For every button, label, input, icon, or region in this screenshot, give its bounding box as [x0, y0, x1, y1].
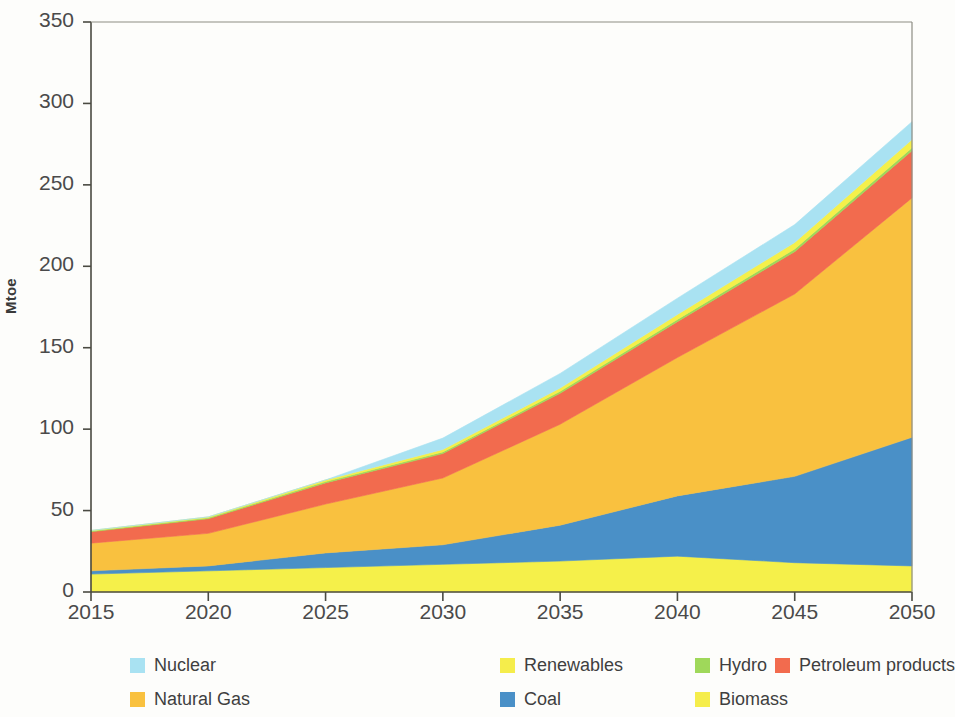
legend-swatch-icon [500, 658, 515, 673]
legend-item-natural-gas[interactable]: Natural Gas [130, 689, 250, 710]
x-axis-tick-label: 2020 [168, 600, 248, 624]
legend-item-coal[interactable]: Coal [500, 689, 561, 710]
legend-label: Petroleum products [799, 655, 955, 676]
y-axis-tick-label: 0 [28, 578, 74, 602]
legend-label: Coal [524, 689, 561, 710]
x-axis-tick-label: 2030 [403, 600, 483, 624]
y-axis-tick-label: 350 [28, 8, 74, 32]
chart-legend: NuclearRenewablesHydroPetroleum products… [130, 648, 930, 716]
x-axis-tick-label: 2025 [286, 600, 366, 624]
x-axis-tick-label: 2045 [755, 600, 835, 624]
legend-item-hydro[interactable]: Hydro [695, 655, 767, 676]
legend-label: Renewables [524, 655, 623, 676]
legend-label: Biomass [719, 689, 788, 710]
y-axis-tick-label: 50 [28, 497, 74, 521]
legend-label: Hydro [719, 655, 767, 676]
y-axis-tick-label: 150 [28, 334, 74, 358]
x-axis-tick-label: 2040 [637, 600, 717, 624]
legend-swatch-icon [500, 692, 515, 707]
legend-item-renewables[interactable]: Renewables [500, 655, 623, 676]
y-axis-tick-label: 300 [28, 89, 74, 113]
legend-label: Nuclear [154, 655, 216, 676]
y-axis-tick-label: 250 [28, 171, 74, 195]
y-axis-tick-label: 200 [28, 252, 74, 276]
x-axis-tick-label: 2050 [872, 600, 952, 624]
legend-swatch-icon [695, 658, 710, 673]
legend-row: Natural GasCoalBiomass [130, 682, 930, 716]
legend-item-nuclear[interactable]: Nuclear [130, 655, 216, 676]
legend-swatch-icon [130, 658, 145, 673]
legend-swatch-icon [130, 692, 145, 707]
legend-item-petroleum-products[interactable]: Petroleum products [775, 655, 955, 676]
x-axis-tick-label: 2015 [51, 600, 131, 624]
legend-item-biomass[interactable]: Biomass [695, 689, 788, 710]
legend-label: Natural Gas [154, 689, 250, 710]
legend-row: NuclearRenewablesHydroPetroleum products [130, 648, 930, 682]
x-axis-tick-label: 2035 [520, 600, 600, 624]
y-axis-tick-label: 100 [28, 415, 74, 439]
legend-swatch-icon [695, 692, 710, 707]
legend-swatch-icon [775, 658, 790, 673]
